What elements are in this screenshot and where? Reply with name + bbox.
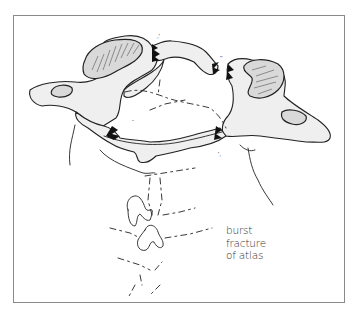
spinal-canal-outline [125,90,226,128]
svg-text:,': ,' [157,33,160,39]
caption-line-2: fracture [226,237,266,250]
lower-vertebra-fragments [127,196,163,250]
figure-caption: burst fracture of atlas [226,224,266,262]
svg-text:-: - [132,117,134,123]
right-lateral-mass [222,59,330,143]
caption-line-1: burst [226,224,266,237]
atlas-illustration: ,' '' ', - [0,0,356,315]
svg-text:',: ', [218,151,221,157]
caption-line-3: of atlas [226,249,266,262]
svg-text:'': '' [220,55,222,61]
